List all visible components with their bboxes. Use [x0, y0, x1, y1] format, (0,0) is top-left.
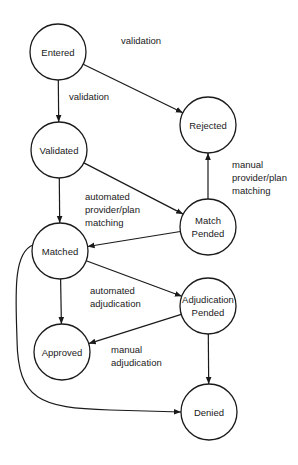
- edge-entered-to-rejected: [83, 64, 183, 112]
- state-node-approved: Approved: [34, 324, 90, 380]
- edge-label-line: adjudication: [90, 298, 141, 309]
- state-node-rejected: Rejected: [180, 97, 236, 153]
- state-label: Rejected: [189, 120, 227, 131]
- edge-match-pended-to-matched: [88, 232, 181, 247]
- edge-label-line: validation: [69, 91, 109, 102]
- state-node-adjudication-pended: AdjudicationPended: [180, 278, 236, 334]
- edge-labels: validationvalidationautomatedprovider/pl…: [69, 35, 287, 368]
- nodes: EnteredRejectedValidatedMatchPendedMatch…: [30, 24, 237, 440]
- state-node-matched: Matched: [32, 223, 88, 279]
- edge-label-line: automated: [85, 191, 130, 202]
- state-label: Validated: [40, 145, 79, 156]
- state-circle: [180, 199, 236, 255]
- edge-label-line: manual: [232, 159, 263, 170]
- edge-label-line: matching: [85, 217, 124, 228]
- state-label: Pended: [192, 307, 225, 318]
- state-label: Adjudication: [182, 294, 234, 305]
- edge-label-line: manual: [111, 344, 142, 355]
- state-node-validated: Validated: [31, 122, 87, 178]
- edge-arrow: [83, 64, 183, 112]
- edge-label-line: provider/plan: [232, 172, 287, 183]
- edge-label-line: automated: [90, 285, 135, 296]
- edge-adjudication-pended-to-approved: [89, 314, 182, 343]
- edge-label: automatedadjudication: [90, 285, 141, 309]
- state-label: Pended: [192, 228, 225, 239]
- edge-label: manualadjudication: [111, 344, 162, 368]
- edge-label: automatedprovider/planmatching: [85, 191, 140, 228]
- state-label: Match: [195, 215, 221, 226]
- state-circle: [180, 278, 236, 334]
- edge-label-line: matching: [232, 185, 271, 196]
- edge-label: validation: [69, 91, 109, 102]
- state-diagram: validationvalidationautomatedprovider/pl…: [0, 0, 298, 465]
- state-node-denied: Denied: [181, 384, 237, 440]
- state-node-match-pended: MatchPended: [180, 199, 236, 255]
- edge-label-line: validation: [121, 35, 161, 46]
- edge-label: validation: [121, 35, 161, 46]
- state-label: Denied: [194, 407, 224, 418]
- state-label: Matched: [42, 246, 78, 257]
- edge-matched-to-approved: [61, 279, 62, 324]
- edge-arrow: [61, 279, 62, 324]
- edge-arrow: [88, 232, 181, 247]
- edge-label-line: adjudication: [111, 357, 162, 368]
- state-label: Approved: [42, 347, 83, 358]
- edge-arrow: [89, 314, 182, 343]
- edge-label: manualprovider/planmatching: [232, 159, 287, 196]
- edge-label-line: provider/plan: [85, 204, 140, 215]
- state-label: Entered: [41, 47, 74, 58]
- state-node-entered: Entered: [30, 24, 86, 80]
